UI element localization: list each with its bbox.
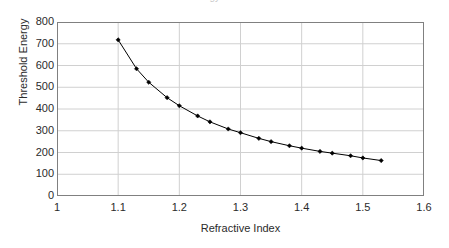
y-tick-label: 600 — [14, 60, 54, 71]
x-axis-tick-labels: 11.11.21.31.41.51.6 — [0, 202, 449, 216]
x-tick-label: 1.4 — [282, 202, 322, 213]
x-tick-label: 1 — [37, 202, 77, 213]
y-tick-label: 100 — [14, 168, 54, 179]
series-line-0 — [118, 40, 381, 161]
y-tick-label: 800 — [14, 16, 54, 27]
data-point-marker — [287, 144, 291, 148]
plot-area — [57, 22, 424, 196]
x-tick-label: 1.1 — [98, 202, 138, 213]
x-axis-title: Refractive Index — [57, 222, 424, 234]
y-tick-label: 500 — [14, 81, 54, 92]
data-point-marker — [208, 120, 212, 124]
data-point-marker — [379, 158, 383, 162]
x-tick-label: 1.5 — [343, 202, 383, 213]
y-tick-label: 0 — [14, 190, 54, 201]
chart-title-text: Threshold Energy vs Refractive Index — [0, 0, 449, 2]
data-point-marker — [361, 156, 365, 160]
data-point-marker — [300, 146, 304, 150]
plot-svg — [57, 22, 424, 196]
chart-figure: Threshold Energy vs Refractive Index Thr… — [0, 0, 449, 248]
data-point-marker — [257, 136, 261, 140]
data-point-marker — [269, 140, 273, 144]
data-point-marker — [330, 151, 334, 155]
y-tick-label: 200 — [14, 147, 54, 158]
x-tick-label: 1.6 — [404, 202, 444, 213]
data-point-marker — [196, 114, 200, 118]
data-point-marker — [349, 154, 353, 158]
y-tick-label: 400 — [14, 103, 54, 114]
chart-title-clipped: Threshold Energy vs Refractive Index — [0, 0, 449, 11]
y-tick-label: 300 — [14, 125, 54, 136]
y-tick-label: 700 — [14, 38, 54, 49]
x-tick-label: 1.3 — [221, 202, 261, 213]
x-tick-label: 1.2 — [159, 202, 199, 213]
